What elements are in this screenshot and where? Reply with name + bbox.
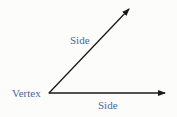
- lower-side-label: Side: [98, 99, 118, 111]
- angle-diagram: Vertex Side Side: [0, 0, 177, 117]
- angle-figure: [0, 0, 177, 117]
- vertex-point: [48, 92, 49, 93]
- upper-side-ray: [49, 9, 129, 93]
- upper-side-label: Side: [70, 34, 90, 46]
- vertex-label: Vertex: [12, 87, 41, 99]
